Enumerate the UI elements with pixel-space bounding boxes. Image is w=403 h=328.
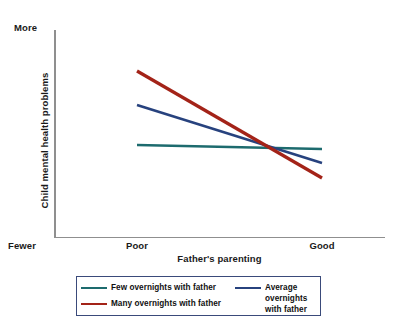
legend-swatch-average-icon — [235, 287, 261, 290]
series-line-many-overnights — [137, 71, 322, 178]
chart-legend: Few overnights with father Many overnigh… — [76, 276, 321, 316]
legend-item-average-overnights[interactable]: Average overnights with father — [235, 282, 319, 315]
x-tick-label-poor: Poor — [112, 240, 162, 251]
series-line-average-overnights — [137, 105, 322, 163]
legend-label-average-overnights: Average overnights with father — [265, 282, 319, 315]
legend-label-few-overnights: Few overnights with father — [111, 282, 216, 293]
x-tick-label-good: Good — [297, 240, 347, 251]
legend-item-few-overnights[interactable]: Few overnights with father — [81, 282, 216, 293]
y-axis-title: Child mental health problems — [39, 51, 50, 231]
series-line-few-overnights — [137, 145, 322, 149]
y-axis-line — [54, 30, 56, 238]
y-axis-low-label: Fewer — [8, 240, 36, 251]
x-axis-title: Father's parenting — [54, 253, 385, 264]
legend-swatch-few-icon — [81, 287, 107, 290]
legend-column-left: Few overnights with father Many overnigh… — [81, 277, 231, 315]
legend-label-many-overnights: Many overnights with father — [111, 298, 221, 309]
legend-swatch-many-icon — [81, 303, 107, 306]
legend-column-right: Average overnights with father — [235, 277, 320, 315]
x-axis-line — [54, 237, 385, 239]
legend-item-many-overnights[interactable]: Many overnights with father — [81, 298, 221, 309]
line-chart-figure: More Fewer Child mental health problems … — [0, 0, 403, 328]
y-axis-high-label: More — [14, 22, 37, 33]
